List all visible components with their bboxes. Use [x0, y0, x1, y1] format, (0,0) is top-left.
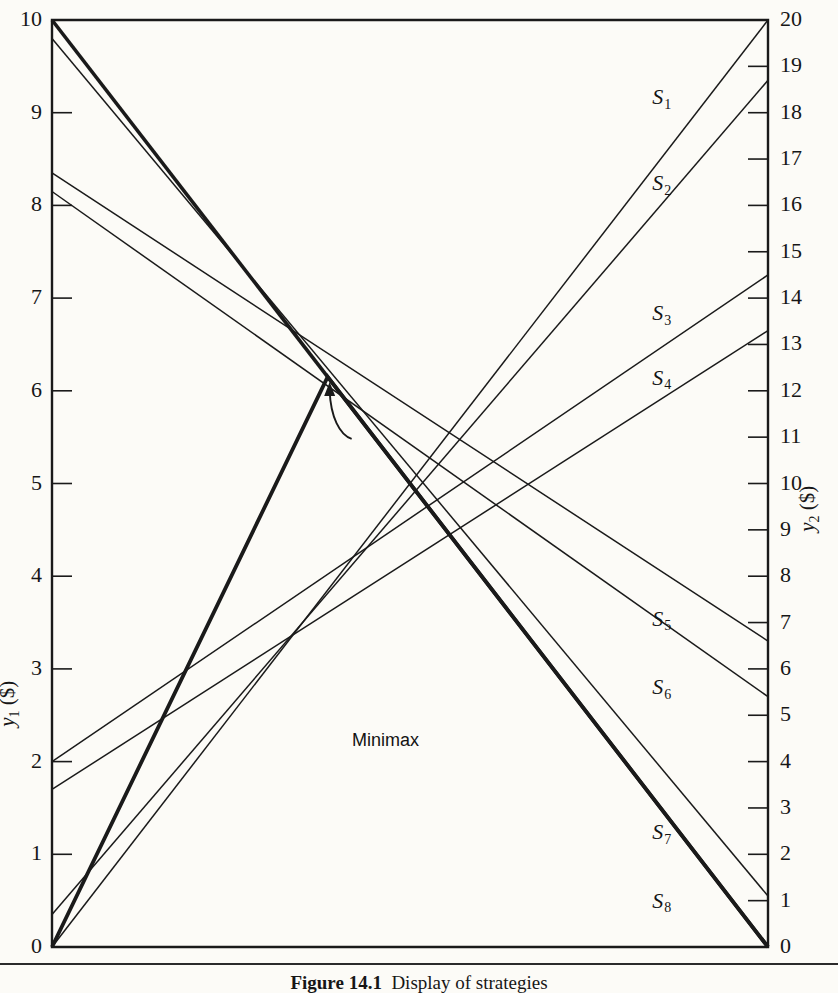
- left-tick-label: 2: [2, 750, 42, 772]
- series-label-sub: 7: [663, 832, 671, 847]
- series-label-text: S: [652, 170, 663, 195]
- left-tick-label: 1: [2, 842, 42, 864]
- series-label-text: S: [652, 674, 663, 699]
- series-label-S5: S5: [652, 608, 671, 634]
- series-label-sub: 3: [663, 313, 671, 328]
- left-tick-label: 9: [2, 101, 42, 123]
- series-label-S1: S1: [652, 86, 671, 112]
- minimax-annotation-label: Minimax: [352, 731, 419, 749]
- left-axis-title-var: y: [0, 717, 19, 726]
- right-tick-label: 17: [780, 147, 820, 169]
- series-label-S3: S3: [652, 302, 671, 328]
- right-tick-label: 3: [780, 796, 820, 818]
- series-label-S2: S2: [652, 172, 671, 198]
- right-tick-label: 0: [780, 935, 820, 957]
- caption-divider: [0, 963, 838, 965]
- right-tick-label: 8: [780, 564, 820, 586]
- series-label-text: S: [652, 300, 663, 325]
- minimax-envelope-line: [52, 377, 768, 947]
- right-tick-label: 4: [780, 750, 820, 772]
- left-tick-label: 0: [2, 935, 42, 957]
- right-tick-label: 19: [780, 54, 820, 76]
- right-tick-label: 10: [780, 472, 820, 494]
- left-tick-label: 4: [2, 564, 42, 586]
- right-tick-label: 6: [780, 657, 820, 679]
- caption-number: Figure 14.1: [290, 972, 381, 993]
- left-tick-label: 10: [2, 8, 42, 30]
- right-tick-label: 12: [780, 379, 820, 401]
- right-tick-label: 15: [780, 240, 820, 262]
- series-label-sub: 6: [663, 687, 671, 702]
- left-axis-title-unit: ($): [0, 681, 19, 706]
- right-tick-label: 20: [780, 8, 820, 30]
- right-tick-label: 16: [780, 193, 820, 215]
- series-label-sub: 1: [663, 97, 671, 112]
- series-label-S4: S4: [652, 367, 671, 393]
- series-label-text: S: [652, 819, 663, 844]
- series-label-text: S: [652, 606, 663, 631]
- right-tick-label: 1: [780, 889, 820, 911]
- series-label-S7: S7: [652, 821, 671, 847]
- left-axis-title: y1 ($): [0, 681, 23, 727]
- right-tick-label: 14: [780, 286, 820, 308]
- strategy-line-S7: [52, 39, 768, 896]
- series-label-sub: 5: [663, 618, 671, 633]
- right-tick-label: 11: [780, 425, 820, 447]
- left-tick-label: 7: [2, 286, 42, 308]
- left-tick-label: 6: [2, 379, 42, 401]
- series-label-sub: 2: [663, 183, 671, 198]
- chart-canvas: [0, 0, 838, 993]
- right-tick-label: 18: [780, 101, 820, 123]
- left-tick-label: 3: [2, 657, 42, 679]
- figure-container: y1 ($) y2 ($) 012345678910 0123456789101…: [0, 0, 838, 993]
- series-label-S8: S8: [652, 890, 671, 916]
- figure-caption: Figure 14.1 Display of strategies: [0, 972, 838, 993]
- right-tick-label: 7: [780, 611, 820, 633]
- strategy-line-S2: [52, 80, 768, 914]
- series-label-text: S: [652, 888, 663, 913]
- right-tick-label: 9: [780, 518, 820, 540]
- caption-text: Display of strategies: [391, 972, 547, 993]
- series-label-text: S: [652, 365, 663, 390]
- left-axis-title-sub: 1: [7, 710, 22, 717]
- left-tick-label: 5: [2, 472, 42, 494]
- series-label-sub: 4: [663, 377, 671, 392]
- right-tick-label: 13: [780, 332, 820, 354]
- series-label-sub: 8: [663, 900, 671, 915]
- right-tick-label: 2: [780, 842, 820, 864]
- right-tick-label: 5: [780, 703, 820, 725]
- strategy-line-S5: [52, 173, 768, 641]
- left-tick-label: 8: [2, 193, 42, 215]
- series-label-text: S: [652, 84, 663, 109]
- series-label-S6: S6: [652, 676, 671, 702]
